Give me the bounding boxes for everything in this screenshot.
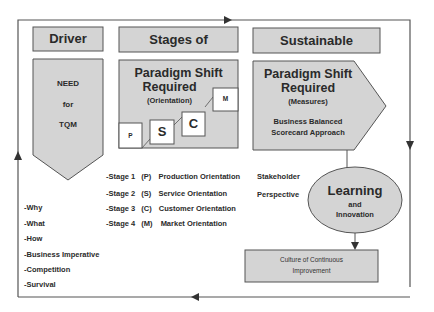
step-c-label: C (182, 116, 205, 131)
culture-line-1: Culture of Continuous (245, 256, 378, 263)
learning-innovation: Innovation (308, 210, 402, 219)
perspective-label: Perspective (257, 190, 299, 199)
culture-line-2: Improvement (245, 267, 378, 274)
driver-list-item: -How (24, 234, 42, 243)
driver-list-item: -Business Imperative (24, 250, 99, 259)
culture-box (245, 250, 378, 282)
stage-item: -Stage 3 (C) Customer Orientation (106, 204, 236, 213)
driver-need-text: NEED (33, 79, 103, 88)
step-p-label: P (119, 132, 142, 139)
stage-item: -Stage 4 (M) Market Orientation (106, 219, 227, 228)
stages-title-1: Paradigm Shift (119, 66, 238, 80)
sustainable-title-2: Required (253, 81, 363, 95)
learning-title: Learning (308, 183, 402, 198)
step-m-label: M (213, 95, 238, 102)
step-s-label: S (150, 124, 174, 139)
stage-name: Market Orientation (161, 219, 227, 228)
driver-list-item: -What (24, 219, 45, 228)
driver-list-item: -Competition (24, 265, 70, 274)
sustainable-body-2: Scorecard Approach (253, 128, 363, 137)
driver-header: Driver (33, 31, 103, 46)
stage-item: -Stage 2 (S) Service Orientation (106, 189, 227, 198)
driver-tqm-text: TQM (33, 120, 103, 129)
driver-list-item: -Why (24, 203, 42, 212)
arrow-up-icon (14, 151, 22, 160)
stage-number: -Stage 3 (106, 204, 135, 213)
arrow-right-icon (224, 16, 232, 24)
arrow-down-culture-icon (351, 242, 359, 250)
stage-item: -Stage 1 (P) Production Orientation (106, 172, 240, 181)
stages-header: Stages of (119, 32, 238, 47)
stage-name: Service Orientation (158, 189, 227, 198)
stage-code: (M) (141, 219, 152, 228)
stage-number: -Stage 2 (106, 189, 135, 198)
stage-number: -Stage 4 (106, 219, 135, 228)
stage-name: Customer Orientation (159, 204, 236, 213)
arrow-down-icon (406, 141, 414, 150)
stage-name: Production Orientation (158, 172, 240, 181)
stages-title-2: Required (110, 80, 229, 94)
learning-and: and (308, 200, 402, 209)
sustainable-title-1: Paradigm Shift (253, 67, 363, 81)
stage-code: (P) (141, 172, 151, 181)
stage-number: -Stage 1 (106, 172, 135, 181)
stage-code: (S) (141, 189, 151, 198)
stakeholder-label: Stakeholder (257, 172, 300, 181)
stage-code: (C) (141, 204, 151, 213)
sustainable-subtitle: (Measures) (253, 97, 363, 106)
sustainable-body-1: Business Balanced (253, 117, 363, 126)
sustainable-header: Sustainable (253, 33, 380, 48)
driver-for-text: for (33, 100, 103, 109)
arrow-left-icon (191, 293, 199, 301)
stages-subtitle: (Orientation) (110, 96, 229, 105)
driver-list-item: -Survival (24, 280, 56, 289)
